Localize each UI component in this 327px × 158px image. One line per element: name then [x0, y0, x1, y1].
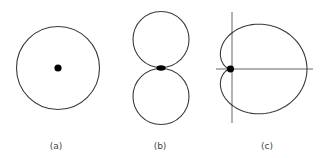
panel-c: (c)	[216, 12, 313, 151]
source-dot	[54, 64, 61, 71]
source-dot	[156, 65, 165, 71]
panel-label-b: (b)	[154, 141, 167, 151]
diagram-canvas: (a) (b) (c)	[0, 0, 327, 158]
panel-label-a: (a)	[50, 141, 63, 151]
panel-b: (b)	[133, 12, 189, 152]
panel-label-c: (c)	[261, 141, 273, 151]
source-dot	[227, 66, 234, 73]
upper-lobe	[133, 12, 189, 68]
panel-a: (a)	[17, 27, 100, 152]
lower-lobe	[133, 69, 189, 125]
